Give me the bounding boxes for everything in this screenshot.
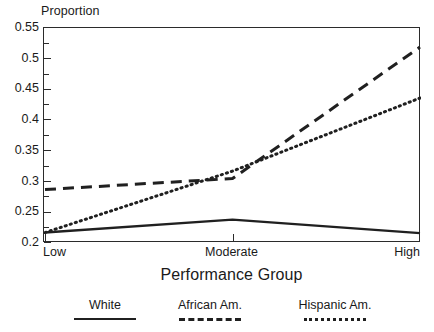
y-tick-major	[44, 150, 51, 151]
y-axis-title: Proportion	[41, 4, 100, 18]
legend-swatch-solid	[74, 318, 136, 320]
legend-item: African Am.	[155, 298, 265, 321]
x-tick-major	[233, 234, 234, 241]
y-tick-label: 0.2	[0, 235, 39, 249]
series-line-white	[45, 220, 420, 234]
x-tick-label: High	[394, 245, 420, 259]
x-tick-label: Moderate	[205, 245, 258, 259]
legend-item: White	[50, 298, 160, 320]
x-tick-major	[45, 234, 46, 241]
legend-swatch-dashed	[179, 318, 241, 321]
legend-item: Hispanic Am.	[280, 298, 390, 321]
y-tick-label: 0.3	[0, 174, 39, 188]
x-tick-label: Low	[43, 245, 66, 259]
y-tick-major	[44, 181, 51, 182]
line-chart-figure: Proportion 0.20.250.30.350.40.450.50.55 …	[0, 0, 434, 332]
y-tick-major	[44, 89, 51, 90]
y-tick-label: 0.4	[0, 112, 39, 126]
series-line-hispanic-am	[45, 98, 420, 233]
legend-swatch-dotted	[304, 318, 366, 321]
y-tick-major	[44, 242, 51, 243]
y-axis-tick-labels: 0.20.250.30.350.40.450.50.55	[0, 27, 39, 242]
legend-item-label: White	[50, 298, 160, 312]
y-tick-label: 0.35	[0, 143, 39, 157]
plot-area	[43, 27, 420, 242]
data-series-layer	[44, 28, 421, 243]
y-tick-label: 0.45	[0, 81, 39, 95]
series-line-african-am	[45, 47, 420, 190]
y-tick-label: 0.25	[0, 204, 39, 218]
y-tick-major	[44, 27, 51, 28]
x-axis-tick-labels: LowModerateHigh	[43, 245, 420, 265]
y-tick-minor	[44, 196, 49, 197]
chart-legend: WhiteAfrican Am.Hispanic Am.	[0, 298, 434, 332]
x-axis-title: Performance Group	[43, 266, 420, 284]
y-tick-minor	[44, 135, 49, 136]
y-tick-minor	[44, 227, 49, 228]
y-tick-major	[44, 119, 51, 120]
y-tick-minor	[44, 104, 49, 105]
x-tick-major	[419, 234, 420, 241]
legend-item-label: Hispanic Am.	[280, 298, 390, 312]
y-tick-minor	[44, 166, 49, 167]
y-tick-label: 0.5	[0, 51, 39, 65]
y-tick-label: 0.55	[0, 20, 39, 34]
y-tick-major	[44, 58, 51, 59]
y-tick-minor	[44, 43, 49, 44]
legend-item-label: African Am.	[155, 298, 265, 312]
y-tick-major	[44, 212, 51, 213]
y-tick-minor	[44, 74, 49, 75]
